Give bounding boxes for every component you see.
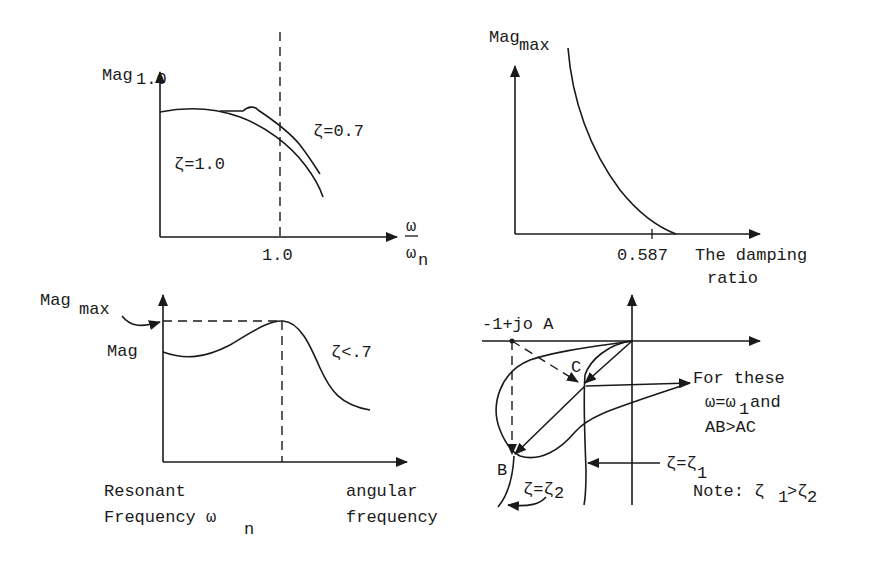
y-axis-label: Mag (489, 28, 520, 47)
note-sub2: 2 (807, 488, 817, 507)
y-axis-label-sub: max (519, 36, 550, 55)
pointer-to-c (586, 383, 690, 386)
note-line1: For these (693, 369, 785, 388)
point-b-label: B (497, 461, 507, 480)
x-axis-label-line1: The damping (695, 246, 807, 265)
locus-zeta-2 (496, 341, 690, 458)
label-zeta-0-7: ζ=0.7 (313, 122, 364, 141)
x-axis-label-line2: ratio (707, 269, 758, 288)
y-axis-label-max: Mag (40, 291, 71, 310)
curve-label: ζ<.7 (331, 343, 372, 362)
magmax-pointer-arrow (122, 316, 160, 325)
y-axis-label-max-sub: max (79, 300, 110, 319)
y-tick-label: 1.0 (136, 70, 167, 89)
resonant-label-sub: n (244, 520, 254, 539)
panel-bottom-right-nyquist: -1+jo A C B For these ω=ω 1 and AB>AC ζ=… (482, 295, 817, 507)
resonant-label-line2: Frequency ω (104, 508, 216, 527)
control-systems-figure: Mag 1.0 ζ=1.0 ζ=0.7 1.0 ω ω n Mag max 0.… (0, 0, 872, 565)
vector-c-to-b (515, 386, 585, 454)
locus-zeta-1 (584, 341, 632, 505)
label-zeta-1: ζ=1.0 (174, 155, 225, 174)
x-tick-label: 1.0 (262, 246, 293, 265)
x-axis-label-denominator: ω (406, 244, 416, 263)
note-line2-sub: 1 (739, 400, 749, 419)
note-label: Note: ζ (693, 482, 764, 501)
zeta2-label: ζ=ζ (523, 480, 554, 499)
curve-zeta-1 (160, 109, 323, 197)
y-axis-label: Mag (102, 66, 133, 85)
zeta2-label-sub: 2 (554, 484, 564, 503)
x-axis-label-denominator-sub: n (418, 251, 428, 270)
zeta1-label: ζ=ζ (666, 454, 697, 473)
note-line2-post: and (750, 393, 781, 412)
point-c-label: C (571, 358, 581, 377)
note-mid: >ζ (787, 482, 807, 501)
x-axis-label-line1: angular (346, 482, 417, 501)
note-line3: AB>AC (705, 418, 756, 437)
curve-magmax (568, 48, 676, 234)
note-line2-pre: ω=ω (705, 393, 736, 412)
x-axis-label-numerator: ω (406, 217, 416, 236)
zeta1-label-sub: 1 (697, 464, 707, 483)
x-tick-label: 0.587 (617, 246, 668, 265)
x-axis-label-line2: frequency (346, 508, 438, 527)
panel-bottom-left-resonance: Mag max Mag ζ<.7 Resonant Frequency ω n … (40, 291, 438, 539)
panel-top-right-magmax-vs-damping: Mag max 0.587 The damping ratio (489, 28, 807, 288)
point-a-label: -1+jo A (482, 315, 554, 334)
y-axis-label: Mag (107, 342, 138, 361)
resonant-label-line1: Resonant (104, 482, 186, 501)
dashed-ac (512, 341, 578, 382)
panel-top-left-magnitude-vs-normalized-frequency: Mag 1.0 ζ=1.0 ζ=0.7 1.0 ω ω n (102, 32, 428, 270)
curve-zeta-less-0-7 (163, 321, 370, 410)
